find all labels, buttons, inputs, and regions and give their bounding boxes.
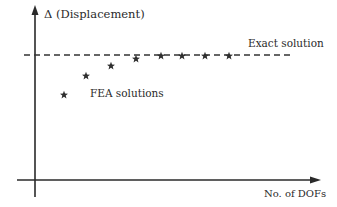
exact-solution-label: Exact solution [248,37,324,49]
star-marker-icon [225,52,233,60]
convergence-chart: Δ (Displacement) No. of DOFs Exact solut… [0,0,337,207]
x-axis-arrow-icon [310,177,321,184]
star-marker-icon [82,72,90,80]
y-axis-label: Δ (Displacement) [44,7,145,21]
x-axis-label: No. of DOFs [264,188,326,199]
star-marker-icon [132,55,140,63]
star-marker-icon [157,52,165,60]
star-marker-icon [60,91,68,99]
star-marker-icon [107,62,115,70]
y-axis-arrow-icon [32,5,39,15]
star-marker-icon [178,52,186,60]
fea-solutions-label: FEA solutions [90,87,164,99]
x-axis [17,177,321,184]
star-marker-icon [201,52,209,60]
y-axis [32,5,39,197]
